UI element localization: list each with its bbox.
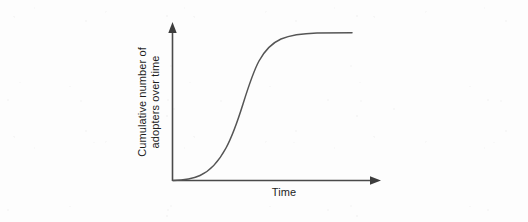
x-axis-arrowhead-icon bbox=[370, 176, 381, 184]
diffusion-s-curve-figure: Cumulative number of adopters over time … bbox=[0, 0, 528, 222]
y-axis-title: Cumulative number of adopters over time bbox=[136, 27, 161, 177]
s-curve-path bbox=[173, 33, 352, 181]
y-axis-title-line1: Cumulative number of bbox=[136, 27, 149, 177]
y-axis-arrowhead-icon bbox=[168, 22, 176, 33]
x-axis-title: Time bbox=[249, 186, 319, 199]
y-axis-title-line2: adopters over time bbox=[149, 27, 162, 177]
